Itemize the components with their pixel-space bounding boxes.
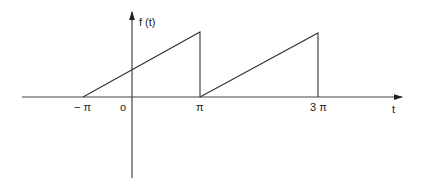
origin-label: o xyxy=(120,102,126,113)
tick-label-pi: π xyxy=(196,102,204,113)
x-axis-label: t xyxy=(392,104,395,115)
sawtooth-period-2 xyxy=(200,33,318,97)
y-axis-label: f (t) xyxy=(139,17,156,28)
tick-label-neg-pi: − π xyxy=(74,102,91,113)
waveform-diagram xyxy=(0,0,423,191)
sawtooth-period-1 xyxy=(83,32,200,97)
tick-label-3pi: 3 π xyxy=(310,102,327,113)
